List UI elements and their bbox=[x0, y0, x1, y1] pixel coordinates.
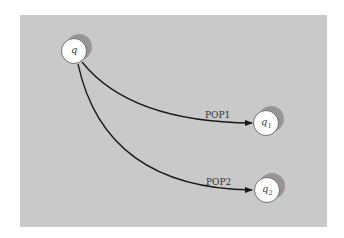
state-diagram: POP1 POP2 q q1 q2 bbox=[0, 0, 344, 238]
node-q1: q1 bbox=[254, 106, 285, 136]
node-q2: q2 bbox=[255, 173, 286, 203]
edge-q-to-q1: POP1 bbox=[82, 62, 252, 123]
node-label-q: q bbox=[71, 44, 77, 55]
edge-label-pop1: POP1 bbox=[205, 110, 230, 120]
edge-label-pop2: POP2 bbox=[206, 177, 231, 187]
node-q: q bbox=[62, 34, 93, 64]
